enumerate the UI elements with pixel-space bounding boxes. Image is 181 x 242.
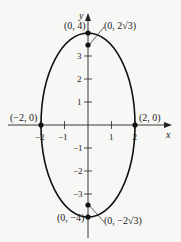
y-tick-label: 1 [77,97,82,107]
y-tick-label: −2 [73,166,83,176]
x-tick-label: −1 [58,132,68,142]
top-vertex-label: (0, 4) [64,20,86,32]
ellipse-diagram: x y −2 −1 1 2 3 2 1 −1 −2 −3 [0,0,181,242]
y-tick-label: −1 [73,143,83,153]
x-ticks: −2 −1 1 2 [35,121,137,142]
left-covertex-label: (−2, 0) [10,112,37,124]
top-focus-leader [89,27,104,45]
bottom-focus-point [85,202,90,207]
top-vertex-point [85,30,90,35]
x-axis-arrow-icon [164,122,172,128]
bottom-vertex-point [85,214,90,219]
top-focus-label: (0, 2√3) [104,20,136,32]
y-tick-label: 3 [77,51,82,61]
y-tick-label: 2 [77,74,82,84]
bottom-focus-label: (0, −2√3) [104,215,142,227]
y-axis-arrow-icon [85,13,91,21]
top-focus-point [85,42,90,47]
right-covertex-point [132,122,137,127]
y-tick-label: −3 [73,189,83,199]
point-labels: (0, 4) (0, 2√3) (−2, 0) (2, 0) (0, −4) (… [10,20,161,227]
x-axis: x [8,122,172,140]
x-tick-label: 1 [109,132,114,142]
right-covertex-label: (2, 0) [139,112,161,124]
x-tick-label: −2 [35,132,45,142]
bottom-vertex-label: (0, −4) [57,212,84,224]
left-covertex-point [38,122,43,127]
x-axis-label: x [165,129,171,140]
